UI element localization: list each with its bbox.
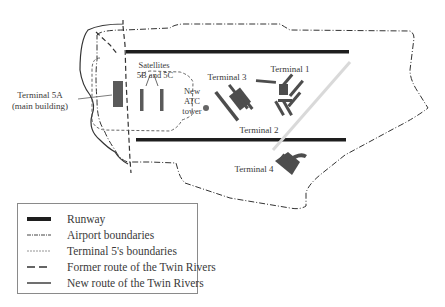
label-atc-1: New xyxy=(184,86,201,96)
terminal-1-building xyxy=(256,73,304,115)
terminal-4-building xyxy=(275,152,307,175)
label-atc-3: tower xyxy=(182,106,202,116)
airport-boundary-swatch-icon xyxy=(27,231,57,239)
former-river-route-branch xyxy=(96,32,118,55)
legend-item-former-river-route: Former route of the Twin Rivers xyxy=(18,259,197,275)
legend: Runway Airport boundaries Terminal 5's b… xyxy=(17,203,198,294)
legend-item-airport-boundaries: Airport boundaries xyxy=(18,227,197,243)
legend-item-runway: Runway xyxy=(18,211,197,227)
legend-item-new-river-route: New route of the Twin Rivers xyxy=(18,275,197,291)
legend-label: Runway xyxy=(67,211,105,227)
satellite-5b-building xyxy=(140,89,144,111)
label-terminal-4: Terminal 4 xyxy=(234,164,274,174)
label-5a-pointer xyxy=(78,95,112,99)
atc-tower-icon xyxy=(203,105,209,111)
label-atc-2: ATC xyxy=(184,96,200,106)
label-terminal-3: Terminal 3 xyxy=(207,72,247,82)
label-terminal-1: Terminal 1 xyxy=(270,64,309,74)
satellite-5c-building xyxy=(160,89,164,111)
former-river-route xyxy=(123,26,131,173)
legend-label: Airport boundaries xyxy=(67,227,154,243)
label-terminal-5a-sub: (main building) xyxy=(12,101,68,111)
terminal-5a-building xyxy=(113,81,123,107)
legend-label: Terminal 5's boundaries xyxy=(67,243,177,259)
new-river-swatch-icon xyxy=(27,279,57,287)
label-satellites-sub: 5B and 5C xyxy=(137,70,174,80)
legend-label: Former route of the Twin Rivers xyxy=(67,259,216,275)
legend-item-terminal5-boundaries: Terminal 5's boundaries xyxy=(18,243,197,259)
legend-label: New route of the Twin Rivers xyxy=(67,275,204,291)
terminal5-boundary-swatch-icon xyxy=(27,247,57,255)
runway-north xyxy=(126,50,349,54)
former-river-swatch-icon xyxy=(27,263,57,271)
label-satellites: Satellites xyxy=(138,60,169,70)
terminal-3-building xyxy=(214,84,253,121)
label-terminal-2: Terminal 2 xyxy=(239,125,278,135)
runway-swatch-icon xyxy=(27,215,57,223)
label-terminal-5a: Terminal 5A xyxy=(17,90,63,100)
runway-south xyxy=(136,138,346,142)
